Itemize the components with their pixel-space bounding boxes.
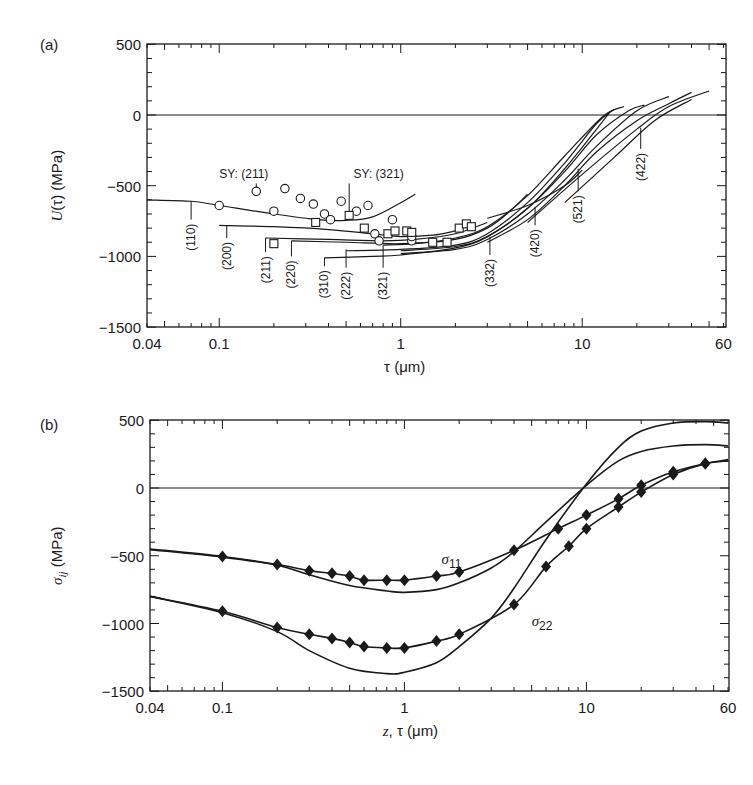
- y-tick-label: 0: [136, 480, 144, 497]
- sy-annotation: SY: (211): [219, 167, 268, 181]
- panel-label-a: (a): [40, 36, 58, 53]
- diamond-marker: [345, 636, 355, 648]
- diamond-marker: [454, 628, 464, 640]
- plot-frame-b: [150, 420, 729, 691]
- square-marker: [312, 218, 320, 226]
- square-marker: [270, 240, 278, 248]
- hkl-label: (521): [571, 195, 585, 223]
- x-tick-label: 60: [720, 699, 737, 716]
- diamond-marker: [399, 642, 409, 654]
- square-marker: [429, 238, 437, 246]
- square-marker: [360, 224, 368, 232]
- series-annotation: σ22: [532, 613, 553, 633]
- x-tick-label: 1: [397, 335, 405, 352]
- hkl-label: (332): [483, 259, 497, 287]
- hkl-labels-a: (110)(200)(211)(220)(310)(222)(321)(332)…: [184, 128, 648, 300]
- circle-marker: [281, 184, 289, 192]
- circle-marker: [337, 197, 345, 205]
- series-curve: [219, 225, 455, 236]
- x-tick-label: 0.1: [212, 699, 233, 716]
- y-tick-label: 0: [133, 107, 141, 124]
- x-tick-label: 60: [715, 335, 732, 352]
- diamond-marker: [217, 550, 227, 562]
- diamond-marker: [581, 509, 591, 521]
- diamond-marker: [613, 501, 623, 513]
- circle-marker: [326, 215, 334, 223]
- diamond-marker: [327, 632, 337, 644]
- hkl-label: (200): [220, 242, 234, 270]
- square-marker: [467, 223, 475, 231]
- series-curve: [401, 105, 645, 251]
- data-markers-a: [215, 184, 475, 247]
- y-tick-label: 500: [119, 412, 144, 429]
- sy-annotation: SY: (321): [354, 167, 404, 181]
- diamond-marker: [304, 565, 314, 577]
- hkl-label: (211): [259, 256, 273, 283]
- y-tick-label: −1500: [102, 683, 144, 700]
- hkl-label: (321): [376, 272, 390, 300]
- axis-ticks-b: [150, 420, 729, 691]
- circle-marker: [388, 215, 396, 223]
- y-tick-label: −1500: [99, 319, 141, 336]
- square-marker: [391, 227, 399, 235]
- circle-marker: [252, 187, 260, 195]
- panel-label-b: (b): [40, 416, 58, 433]
- y-tick-label: −1000: [102, 616, 144, 633]
- x-tick-label: 1: [400, 699, 408, 716]
- diamond-marker: [382, 574, 392, 586]
- tick-labels-b: 0.040.1110605000−500−1000−1500: [102, 412, 737, 716]
- y-tick-label: −1000: [99, 248, 141, 265]
- hkl-label: (422): [634, 153, 648, 181]
- x-tick-label: 10: [578, 699, 595, 716]
- plot-frame-a: [147, 44, 726, 327]
- x-axis-label-a: τ (μm): [384, 358, 425, 375]
- y-tick-label: −500: [110, 548, 144, 565]
- circle-marker: [215, 201, 223, 209]
- figure: (a) 0.040.1110605000−500−1000−1500 (110)…: [0, 0, 753, 785]
- diamond-marker: [272, 559, 282, 571]
- circle-marker: [270, 207, 278, 215]
- diamond-marker: [327, 567, 337, 579]
- series-curve: [150, 422, 728, 674]
- series-curve: [150, 460, 728, 581]
- y-tick-label: 500: [116, 36, 141, 53]
- square-marker: [443, 238, 451, 246]
- annotations-b: σ11σ22: [442, 551, 553, 633]
- hkl-label: (220): [284, 260, 298, 288]
- x-tick-label: 0.04: [135, 699, 164, 716]
- series-curve: [528, 91, 710, 223]
- x-tick-label: 10: [574, 335, 591, 352]
- chart-panel-a: (a) 0.040.1110605000−500−1000−1500 (110)…: [40, 36, 732, 375]
- y-axis-label-b: σij (MPa): [48, 526, 68, 585]
- x-tick-label: 0.04: [132, 335, 161, 352]
- chart-panel-b: (b) 0.040.1110605000−500−1000−1500 σ11σ2…: [40, 412, 736, 739]
- diamond-marker: [359, 641, 369, 653]
- square-marker: [345, 211, 353, 219]
- y-tick-label: −500: [107, 178, 141, 195]
- circle-marker: [375, 237, 383, 245]
- hkl-label: (420): [528, 229, 542, 257]
- axis-ticks-a: [147, 44, 726, 327]
- diamond-marker: [509, 599, 519, 611]
- circle-marker: [309, 200, 317, 208]
- hkl-label: (110): [184, 224, 198, 251]
- tick-labels-a: 0.040.1110605000−500−1000−1500: [99, 36, 732, 352]
- diamond-marker: [553, 523, 563, 535]
- diamond-marker: [345, 570, 355, 582]
- series-curve: [383, 107, 624, 246]
- hkl-label: (310): [317, 270, 331, 298]
- diamond-marker: [304, 628, 314, 640]
- diamond-marker: [431, 570, 441, 582]
- series-curve: [147, 194, 415, 220]
- diamond-marker: [359, 574, 369, 586]
- circle-marker: [296, 194, 304, 202]
- x-tick-label: 0.1: [209, 335, 230, 352]
- x-axis-label-b: z, τ (μm): [382, 722, 438, 739]
- square-marker: [408, 228, 416, 236]
- series-curve: [150, 445, 728, 593]
- circle-marker: [364, 201, 372, 209]
- hkl-label: (222): [339, 272, 353, 300]
- diamond-marker: [399, 574, 409, 586]
- series-annotation: σ11: [442, 551, 462, 571]
- y-axis-label-a: U(τ) (MPa): [48, 150, 65, 222]
